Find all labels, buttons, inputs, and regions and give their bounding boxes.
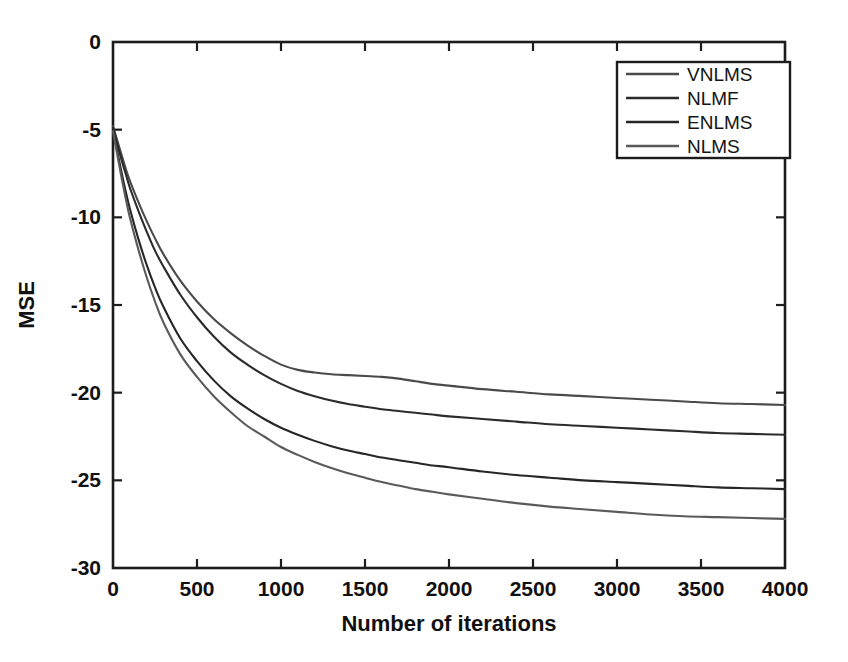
- series-line-nlmf: [113, 128, 785, 435]
- series-line-enlms: [113, 130, 785, 489]
- legend-label-nlms: NLMS: [687, 136, 740, 157]
- x-axis-tick-labels: 05001000150020002500300035004000: [107, 577, 808, 600]
- x-tick-label: 2000: [426, 577, 473, 600]
- y-tick-label: -15: [71, 293, 102, 316]
- y-axis-ticks: [113, 130, 785, 481]
- y-axis-label: MSE: [14, 281, 39, 329]
- x-axis-label: Number of iterations: [341, 611, 556, 636]
- x-tick-label: 3000: [594, 577, 641, 600]
- x-tick-label: 4000: [762, 577, 809, 600]
- y-tick-label: -25: [71, 468, 102, 491]
- y-tick-label: 0: [89, 30, 101, 53]
- x-tick-label: 1000: [258, 577, 305, 600]
- y-tick-label: -10: [71, 205, 101, 228]
- legend-label-nlmf: NLMF: [687, 88, 739, 109]
- mse-convergence-chart: 05001000150020002500300035004000 0-5-10-…: [0, 0, 848, 662]
- x-tick-label: 0: [107, 577, 119, 600]
- y-tick-label: -30: [71, 556, 101, 579]
- y-tick-label: -5: [82, 118, 101, 141]
- y-tick-label: -20: [71, 381, 101, 404]
- legend-label-enlms: ENLMS: [687, 112, 752, 133]
- legend-label-vnlms: VNLMS: [687, 64, 752, 85]
- x-tick-label: 500: [179, 577, 214, 600]
- x-tick-label: 3500: [678, 577, 725, 600]
- y-axis-tick-labels: 0-5-10-15-20-25-30: [71, 30, 102, 579]
- chart-legend: VNLMSNLMFENLMSNLMS: [617, 62, 790, 158]
- x-tick-label: 1500: [342, 577, 389, 600]
- series-line-nlms: [113, 131, 785, 518]
- series-line-vnlms: [113, 126, 785, 405]
- data-series-group: [113, 126, 785, 519]
- chart-figure: 05001000150020002500300035004000 0-5-10-…: [0, 0, 848, 662]
- x-tick-label: 2500: [510, 577, 557, 600]
